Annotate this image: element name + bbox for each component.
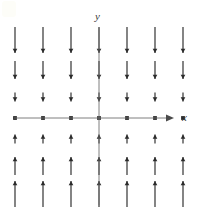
field-vector: [69, 135, 74, 144]
arrowhead-up-icon: [41, 157, 46, 161]
arrowhead-up-icon: [153, 181, 158, 185]
field-vector: [125, 157, 130, 175]
field-vector: [13, 27, 18, 53]
field-vector: [181, 93, 186, 102]
field-vector: [69, 61, 74, 79]
field-vector: [13, 157, 18, 175]
arrowhead-down-icon: [181, 97, 186, 101]
field-vector: [13, 93, 18, 102]
field-vector: [125, 135, 130, 144]
field-vector: [41, 135, 46, 144]
field-vector: [153, 135, 158, 144]
x-axis-label: x: [182, 112, 187, 123]
field-vector: [125, 181, 130, 207]
field-vector: [41, 61, 46, 79]
field-vector: [13, 61, 18, 79]
arrowhead-up-icon: [181, 181, 186, 185]
arrowhead-down-icon: [13, 75, 18, 79]
field-vector: [41, 181, 46, 207]
field-vector: [69, 27, 74, 53]
field-vector: [125, 93, 130, 102]
arrowhead-down-icon: [153, 75, 158, 79]
arrowhead-up-icon: [41, 181, 46, 185]
field-vector: [181, 135, 186, 144]
arrowhead-up-icon: [125, 181, 130, 185]
arrowhead-down-icon: [41, 49, 46, 53]
arrowhead-down-icon: [153, 97, 158, 101]
direction-field-plot: [0, 0, 208, 216]
arrowhead-up-icon: [13, 135, 18, 139]
arrowhead-up-icon: [69, 157, 74, 161]
arrowhead-up-icon: [181, 157, 186, 161]
arrowhead-down-icon: [181, 49, 186, 53]
field-vector: [153, 61, 158, 79]
field-vector: [153, 27, 158, 53]
field-vector: [69, 93, 74, 102]
field-vector: [125, 61, 130, 79]
arrowhead-down-icon: [41, 75, 46, 79]
arrowhead-up-icon: [125, 157, 130, 161]
arrowhead-down-icon: [69, 97, 74, 101]
field-vector: [181, 181, 186, 207]
field-vector: [41, 157, 46, 175]
arrowhead-down-icon: [69, 75, 74, 79]
arrowhead-down-icon: [125, 49, 130, 53]
arrowhead-down-icon: [153, 49, 158, 53]
arrowhead-down-icon: [181, 75, 186, 79]
field-vector: [13, 135, 18, 144]
field-vector: [69, 157, 74, 175]
arrowhead-up-icon: [41, 135, 46, 139]
arrowhead-down-icon: [125, 75, 130, 79]
arrowhead-down-icon: [41, 97, 46, 101]
field-vector: [125, 27, 130, 53]
field-vector: [13, 181, 18, 207]
field-vector: [41, 27, 46, 53]
axis-layer: [14, 28, 174, 205]
field-vector: [181, 157, 186, 175]
y-axis-label: y: [95, 11, 100, 22]
arrowhead-up-icon: [181, 135, 186, 139]
field-vector: [181, 27, 186, 53]
arrowhead-up-icon: [69, 135, 74, 139]
direction-field-figure: x y: [0, 0, 208, 216]
arrowhead-up-icon: [13, 157, 18, 161]
arrowhead-up-icon: [69, 181, 74, 185]
field-vector: [153, 181, 158, 207]
x-axis-arrowhead: [166, 115, 174, 122]
arrowhead-up-icon: [13, 181, 18, 185]
arrowhead-down-icon: [69, 49, 74, 53]
arrowhead-down-icon: [13, 49, 18, 53]
arrowhead-up-icon: [153, 135, 158, 139]
arrowhead-up-icon: [125, 135, 130, 139]
field-vector: [181, 61, 186, 79]
field-vector: [153, 93, 158, 102]
field-vector: [41, 93, 46, 102]
arrowhead-down-icon: [13, 97, 18, 101]
arrowhead-up-icon: [153, 157, 158, 161]
field-vector: [69, 181, 74, 207]
field-vector: [153, 157, 158, 175]
arrowhead-down-icon: [125, 97, 130, 101]
